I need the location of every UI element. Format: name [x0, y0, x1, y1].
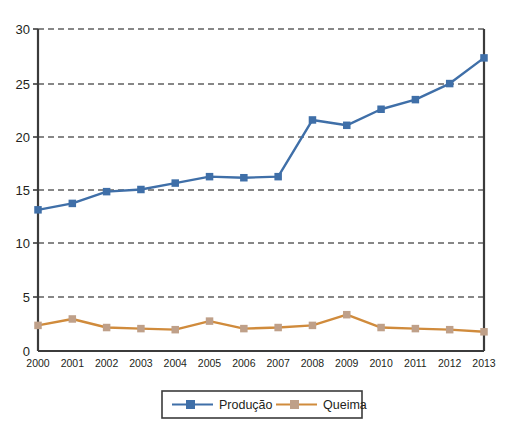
x-tick-label: 2013	[472, 357, 496, 369]
data-point[interactable]	[240, 325, 248, 333]
y-tick-label: 5	[23, 290, 30, 305]
data-point[interactable]	[412, 96, 420, 104]
data-point[interactable]	[446, 326, 454, 334]
x-tick-label: 2005	[198, 357, 222, 369]
data-point[interactable]	[377, 324, 385, 332]
x-tick-label: 2000	[26, 357, 50, 369]
chart-container: 30 25 20 15 10 5 0 200020012002200320042…	[0, 0, 524, 435]
series-queima	[34, 311, 488, 336]
y-tick-label: 10	[16, 236, 30, 251]
legend-marker-queima	[290, 400, 299, 409]
x-tick-label: 2006	[232, 357, 256, 369]
data-point[interactable]	[171, 326, 179, 334]
x-tick-label: 2010	[369, 357, 393, 369]
data-point[interactable]	[103, 188, 111, 196]
data-point[interactable]	[69, 315, 77, 323]
y-tick-label: 20	[16, 130, 30, 145]
line-chart: 30 25 20 15 10 5 0 200020012002200320042…	[0, 0, 524, 435]
data-series-layer	[34, 54, 488, 335]
data-point[interactable]	[412, 325, 420, 333]
data-point[interactable]	[103, 324, 111, 332]
data-point[interactable]	[34, 322, 42, 330]
y-tick-label: 30	[16, 22, 30, 37]
series-line	[38, 58, 484, 210]
data-point[interactable]	[137, 186, 145, 194]
data-point[interactable]	[34, 206, 42, 214]
x-tick-label: 2004	[164, 357, 188, 369]
data-point[interactable]	[309, 116, 317, 124]
x-tick-label: 2002	[95, 357, 119, 369]
data-point[interactable]	[274, 324, 282, 332]
x-tick-label: 2012	[438, 357, 462, 369]
legend-label-producao: Produção	[219, 398, 273, 412]
data-point[interactable]	[171, 179, 179, 187]
y-tick-label: 15	[16, 183, 30, 198]
data-point[interactable]	[480, 54, 488, 62]
x-axis-labels: 2000200120022003200420052006200720082009…	[26, 357, 496, 369]
data-point[interactable]	[343, 122, 351, 130]
y-axis-labels: 30 25 20 15 10 5 0	[16, 22, 30, 359]
x-tick-label: 2007	[266, 357, 290, 369]
x-tick-label: 2009	[335, 357, 359, 369]
x-tick-label: 2003	[129, 357, 153, 369]
x-tick-label: 2011	[404, 357, 427, 369]
y-tick-label: 25	[16, 77, 30, 92]
data-point[interactable]	[377, 106, 385, 114]
data-point[interactable]	[274, 173, 282, 181]
data-point[interactable]	[309, 322, 317, 330]
data-point[interactable]	[137, 325, 145, 333]
data-point[interactable]	[206, 173, 214, 181]
data-point[interactable]	[240, 174, 248, 182]
legend-label-queima: Queima	[323, 398, 367, 412]
data-point[interactable]	[446, 80, 454, 88]
data-point[interactable]	[69, 200, 77, 208]
data-point[interactable]	[480, 328, 488, 336]
x-tick-label: 2001	[61, 357, 85, 369]
gridlines	[38, 29, 484, 297]
chart-legend: Produção Queima	[162, 391, 367, 418]
data-point[interactable]	[206, 317, 214, 325]
x-tick-label: 2008	[301, 357, 325, 369]
data-point[interactable]	[343, 311, 351, 319]
legend-marker-producao	[186, 400, 195, 409]
